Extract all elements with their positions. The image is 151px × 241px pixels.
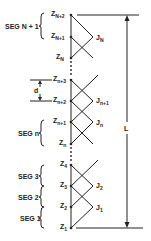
svg-text:Zn+1: Zn+1: [53, 117, 66, 126]
length-label: L: [124, 125, 129, 132]
arrowhead-up-icon: [38, 80, 42, 84]
junction-line: [93, 160, 98, 165]
svg-text:Z4: Z4: [60, 160, 67, 169]
svg-text:JN: JN: [96, 34, 104, 43]
segment-labels: SEG N + 1 SEG n SEG 3 SEG 2 SEG 1: [5, 23, 41, 222]
svg-text:Zn: Zn: [59, 139, 66, 148]
junction-line: [71, 15, 93, 37]
svg-text:SEG 3: SEG 3: [18, 173, 39, 180]
svg-text:Z1: Z1: [60, 223, 67, 232]
brace-seg3: [39, 165, 44, 186]
svg-text:Z2: Z2: [60, 202, 67, 211]
svg-text:Jn+1: Jn+1: [96, 97, 109, 106]
svg-text:ZN+1: ZN+1: [51, 32, 65, 41]
brace-seg-n: [39, 120, 44, 146]
junction-line: [71, 207, 93, 228]
svg-text:SEG 2: SEG 2: [18, 194, 39, 201]
arrowhead-down-icon: [38, 97, 42, 101]
svg-text:J1: J1: [96, 204, 103, 213]
segment-diagram: ZN+2 ZN+1 ZN Zn+3 Zn+2 Zn+1 Zn Z4 Z3 Z2 …: [0, 0, 151, 241]
spacing-label: d: [34, 87, 38, 94]
arrowhead-up-icon: [125, 15, 130, 21]
arrowhead-down-icon: [125, 222, 130, 228]
svg-text:Zn+3: Zn+3: [53, 75, 66, 84]
svg-text:SEG N + 1: SEG N + 1: [5, 23, 39, 30]
svg-text:J2: J2: [96, 182, 103, 191]
brace-seg2: [39, 186, 44, 207]
svg-text:Zn+2: Zn+2: [53, 96, 66, 105]
svg-text:Jn: Jn: [96, 119, 103, 128]
svg-text:Z3: Z3: [60, 181, 67, 190]
node-labels: ZN+2 ZN+1 ZN Zn+3 Zn+2 Zn+1 Zn Z4 Z3 Z2 …: [51, 10, 67, 232]
junction-labels: JN Jn+1 Jn J2 J1: [96, 34, 109, 213]
brace-seg-n1: [39, 13, 44, 39]
svg-text:SEG n: SEG n: [18, 130, 39, 137]
junction-line: [93, 75, 98, 80]
svg-text:SEG 1: SEG 1: [20, 215, 41, 222]
svg-text:ZN: ZN: [56, 53, 64, 62]
svg-text:ZN+2: ZN+2: [51, 10, 65, 19]
